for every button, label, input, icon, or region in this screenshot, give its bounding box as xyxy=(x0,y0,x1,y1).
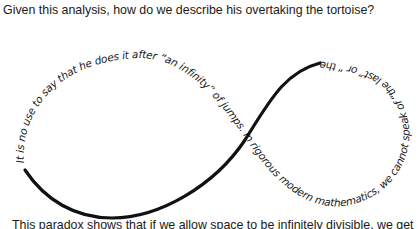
caption-bottom: This paradox shows that if we allow spac… xyxy=(12,218,414,229)
curved-text: It is no use to say that he does it afte… xyxy=(0,0,411,208)
infinity-curve xyxy=(25,63,320,218)
curved-text-path: It is no use to say that he does it afte… xyxy=(0,0,411,208)
infinity-figure: It is no use to say that he does it afte… xyxy=(0,0,420,229)
